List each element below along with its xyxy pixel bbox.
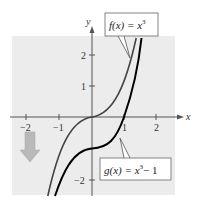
f-label: f(x) = x [109, 19, 142, 32]
svg-text:g(x) = x3− 1: g(x) = x3− 1 [104, 163, 157, 177]
x-tick-label: 2 [154, 122, 159, 133]
svg-text:f(x) = x3: f(x) = x3 [109, 18, 146, 32]
chart: x y −2 −1 1 2 2 1 −2 f(x) = x3 g(x) = x3… [0, 0, 197, 202]
y-axis-label: y [85, 16, 91, 27]
x-axis-arrow-icon [177, 115, 184, 120]
x-tick-label: −1 [53, 122, 64, 133]
y-tick-label: −2 [74, 175, 85, 186]
y-tick-label: 1 [81, 81, 86, 92]
y-axis-arrow-icon [90, 26, 95, 33]
x-axis-label: x [185, 111, 191, 122]
y-tick-label: 2 [81, 50, 86, 61]
x-tick-label: 1 [122, 122, 127, 133]
g-label: g(x) = x [104, 164, 140, 177]
x-tick-label: −2 [20, 122, 31, 133]
